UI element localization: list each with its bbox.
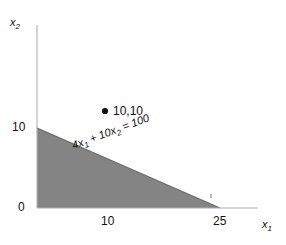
x-axis-label-subscript: 1 bbox=[268, 224, 272, 233]
y-tick-label-10: 10 bbox=[12, 120, 25, 134]
y-axis-label: x2 bbox=[10, 16, 20, 31]
y-tick-label-0: 0 bbox=[18, 200, 25, 214]
figure-canvas: x2 x1 0 10 10 25 10,10 4x1 + 10x2 = 100 bbox=[0, 0, 286, 245]
y-axis-label-subscript: 2 bbox=[16, 22, 20, 31]
x-axis-label: x1 bbox=[262, 218, 272, 233]
x-tick-label-10: 10 bbox=[101, 214, 114, 228]
point-10-10-marker bbox=[102, 108, 108, 114]
x-tick-label-25: 25 bbox=[213, 214, 226, 228]
